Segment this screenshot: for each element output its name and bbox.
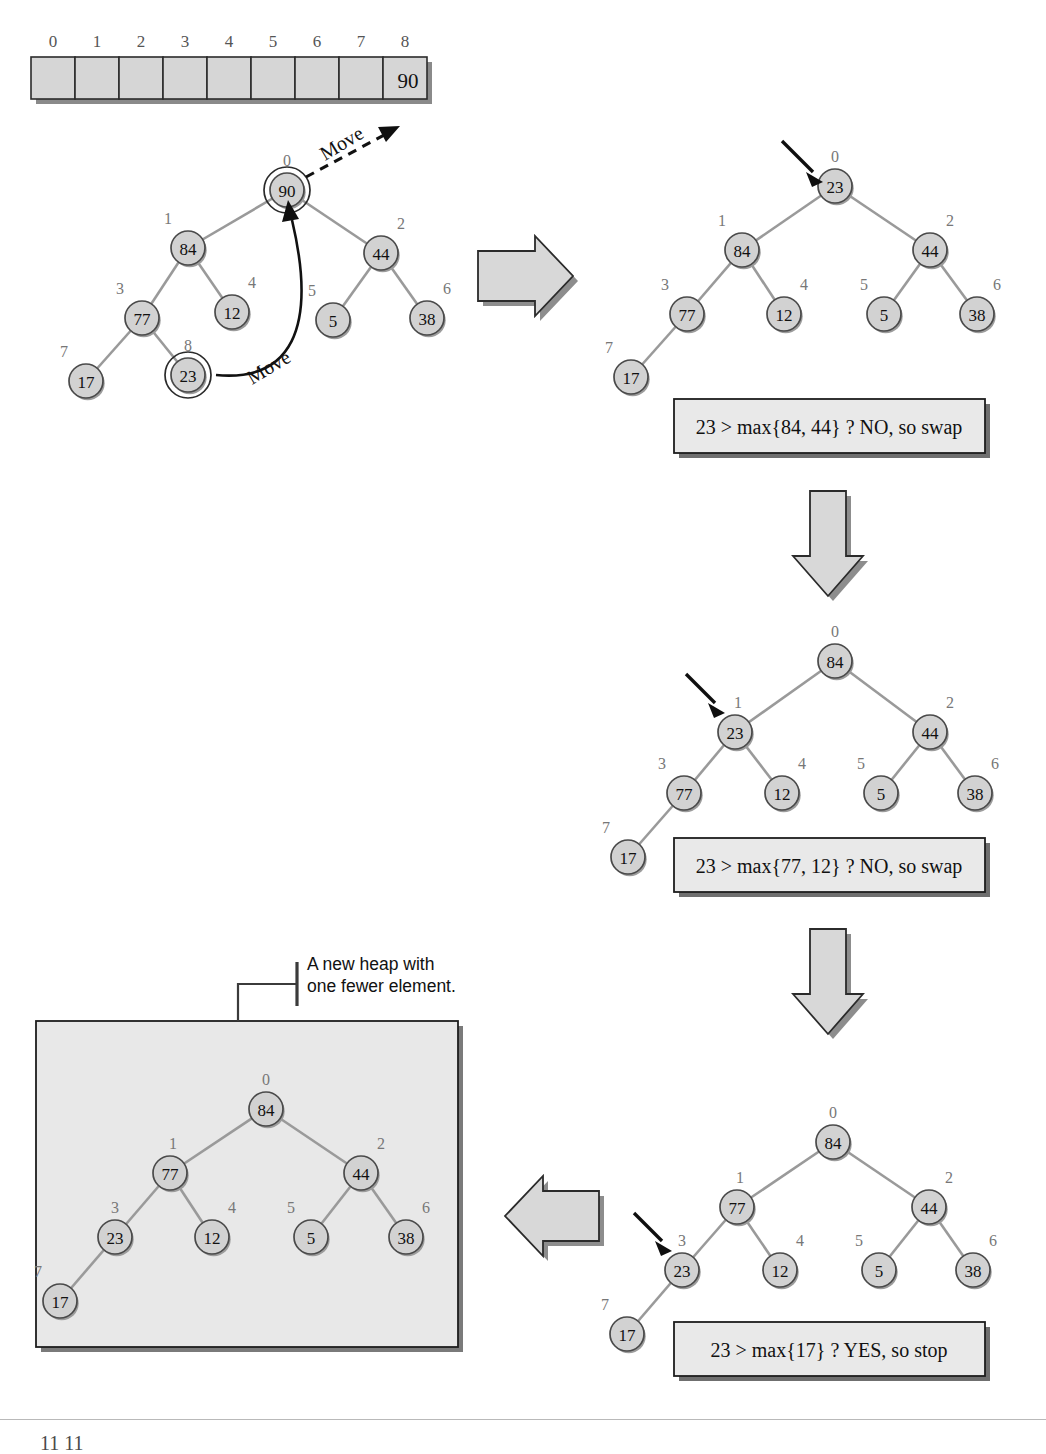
array-cell xyxy=(339,57,383,99)
tree-node: 124 xyxy=(767,276,808,333)
tree-node: 771 xyxy=(720,1169,756,1226)
tree-node-index: 6 xyxy=(991,755,999,772)
tree-node-value: 23 xyxy=(180,367,197,386)
tree-node-value: 44 xyxy=(921,1199,939,1218)
tree-node-value: 38 xyxy=(969,306,986,325)
tree-node: 840 xyxy=(816,1104,852,1161)
tree-node-index: 7 xyxy=(602,819,610,836)
array-index-label: 1 xyxy=(93,32,102,51)
tree-node-index: 5 xyxy=(855,1232,863,1249)
tree-node: 177 xyxy=(605,339,650,396)
tree-node-index: 0 xyxy=(262,1071,270,1088)
tree-node-index: 3 xyxy=(661,276,669,293)
move-label-root: Move xyxy=(243,345,294,388)
tree-node: 386 xyxy=(410,280,451,337)
tree-node: 55 xyxy=(855,1232,898,1289)
tree-node-index: 1 xyxy=(736,1169,744,1186)
array-cell xyxy=(295,57,339,99)
tree-node-index: 4 xyxy=(796,1232,804,1249)
tree-node: 841 xyxy=(718,212,761,269)
tree-node-index: 7 xyxy=(60,343,68,360)
tree-node-index: 5 xyxy=(857,755,865,772)
tree-node-value: 44 xyxy=(353,1165,371,1184)
tree-node-value: 38 xyxy=(398,1229,415,1248)
tree-node: 177 xyxy=(602,819,647,876)
tree-node-value: 44 xyxy=(373,245,391,264)
tree-node-index: 7 xyxy=(34,1263,42,1280)
tree-node-index: 6 xyxy=(443,280,451,297)
caption-text: 23 > max{77, 12} ? NO, so swap xyxy=(696,855,963,878)
tree-node-index: 2 xyxy=(397,215,405,232)
tree-node: 442 xyxy=(913,212,954,269)
tree-node: 773 xyxy=(116,280,161,337)
tree-node-index: 7 xyxy=(605,339,613,356)
caption-text: 23 > max{84, 44} ? NO, so swap xyxy=(696,416,963,439)
tree-node: 773 xyxy=(661,276,706,333)
tree-node-index: 4 xyxy=(248,274,256,291)
tree-node: 55 xyxy=(308,282,352,339)
tree-node-value: 84 xyxy=(827,653,845,672)
tree-node-value: 17 xyxy=(78,373,96,392)
array-index-label: 6 xyxy=(313,32,322,51)
page-rule xyxy=(0,1419,1046,1420)
array-cell xyxy=(119,57,163,99)
tree-node: 386 xyxy=(960,276,1001,333)
figure-caption: 11 11 xyxy=(40,1432,84,1454)
tree-node: 840 xyxy=(818,623,854,680)
tree-node-index: 2 xyxy=(945,1169,953,1186)
pointer-arrow xyxy=(634,1213,672,1256)
array-index-label: 2 xyxy=(137,32,146,51)
tree-node-index: 3 xyxy=(116,280,124,297)
tree-node: 124 xyxy=(763,1232,804,1289)
tree-node-index: 6 xyxy=(422,1199,430,1216)
tree-after-first-swap: 84023144277312455386177 23 > max{77, 12}… xyxy=(602,623,999,897)
tree-node-index: 7 xyxy=(601,1296,609,1313)
tree-node-value: 17 xyxy=(623,369,641,388)
tree-node-index: 0 xyxy=(829,1104,837,1121)
tree-node-value: 23 xyxy=(827,178,844,197)
tree-node-index: 1 xyxy=(164,210,172,227)
tree-node-index: 3 xyxy=(678,1232,686,1249)
tree-node-index: 3 xyxy=(658,755,666,772)
tree-node-value: 84 xyxy=(734,242,752,261)
tree-node: 177 xyxy=(60,343,105,400)
tree-node-value: 23 xyxy=(107,1229,124,1248)
tree-node-value: 12 xyxy=(204,1229,221,1248)
array-cell xyxy=(31,57,75,99)
tree-nodes: 23084144277312455386177 xyxy=(605,148,1001,396)
tree-node-index: 2 xyxy=(377,1135,385,1152)
tree-node-index: 5 xyxy=(860,276,868,293)
tree-node: 442 xyxy=(912,1169,953,1226)
tree-node-value: 44 xyxy=(922,724,940,743)
tree-node: 386 xyxy=(958,755,999,812)
tree-node: 442 xyxy=(913,694,954,751)
tree-edges xyxy=(86,190,427,381)
caption-box: 23 > max{17} ? YES, so stop xyxy=(674,1322,990,1381)
tree-node: 442 xyxy=(364,215,405,272)
move-to-root-arrow xyxy=(216,200,302,376)
annotation-line-2: one fewer element. xyxy=(307,975,456,997)
pointer-arrow xyxy=(782,141,823,187)
tree-node: 233 xyxy=(665,1232,701,1289)
array-index-label: 8 xyxy=(401,32,410,51)
tree-node: 230 xyxy=(818,148,854,205)
tree-node-value: 77 xyxy=(134,310,152,329)
tree-node-value: 12 xyxy=(224,304,241,323)
tree-edge xyxy=(735,661,835,732)
tree-node-value: 17 xyxy=(52,1293,70,1312)
tree-node-value: 77 xyxy=(729,1199,747,1218)
caption-box: 23 > max{84, 44} ? NO, so swap xyxy=(674,399,990,458)
tree-node-index: 5 xyxy=(287,1199,295,1216)
tree-node-index: 4 xyxy=(798,755,806,772)
tree-node-value: 90 xyxy=(279,182,296,201)
tree-node: 124 xyxy=(215,274,256,331)
tree-node-index: 5 xyxy=(308,282,316,299)
array-index-label: 5 xyxy=(269,32,278,51)
tree-node: 773 xyxy=(658,755,703,812)
array-index-label: 7 xyxy=(357,32,366,51)
tree-node-value: 5 xyxy=(880,306,889,325)
caption-box: 23 > max{77, 12} ? NO, so swap xyxy=(674,838,990,897)
tree-node: 177 xyxy=(601,1296,646,1353)
